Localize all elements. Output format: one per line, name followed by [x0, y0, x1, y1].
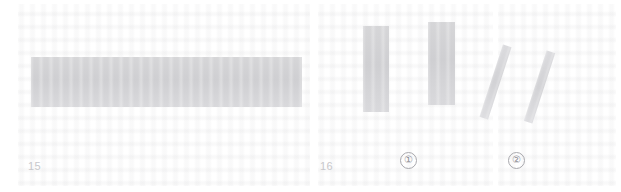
figure-marker-one: ①: [400, 152, 417, 169]
vertical-gray-bar-2: [428, 22, 455, 105]
wide-gray-block: [31, 57, 302, 107]
diagonal-gray-bar-2: [524, 50, 555, 123]
page-number-middle: 16: [320, 160, 333, 172]
diagonal-gray-bar-1: [479, 44, 511, 119]
figure-marker-two: ②: [508, 152, 525, 169]
scanned-page: 15 16 ① ②: [0, 0, 621, 192]
vertical-gray-bar-1: [363, 26, 389, 112]
page-number-left: 15: [28, 160, 41, 172]
